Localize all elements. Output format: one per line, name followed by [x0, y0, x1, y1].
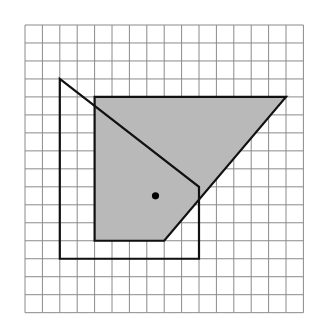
dot-point — [152, 192, 159, 199]
grid-diagram — [0, 0, 314, 319]
